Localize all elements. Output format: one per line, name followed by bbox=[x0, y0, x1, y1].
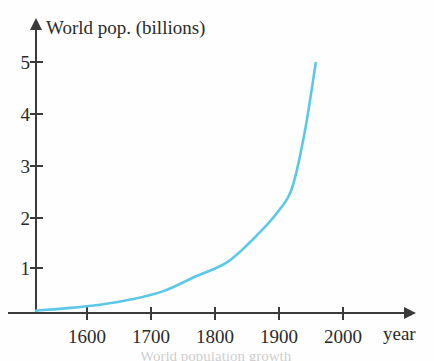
page-bleed-text: World population growth bbox=[0, 352, 434, 361]
y-tick-label-1: 1 bbox=[8, 259, 30, 278]
y-tick-label-3: 3 bbox=[8, 157, 30, 176]
y-tick-label-4: 4 bbox=[8, 105, 30, 124]
x-tick-label-1700: 1700 bbox=[119, 327, 183, 346]
x-axis-label: year bbox=[383, 324, 416, 343]
chart-plot-area bbox=[0, 0, 434, 361]
x-tick-label-2000: 2000 bbox=[311, 327, 375, 346]
y-tick-label-5: 5 bbox=[8, 53, 30, 72]
chart-title: World pop. (billions) bbox=[46, 18, 205, 37]
x-tick-label-1900: 1900 bbox=[247, 327, 311, 346]
x-tick-label-1800: 1800 bbox=[183, 327, 247, 346]
population-curve bbox=[36, 63, 316, 311]
y-tick-label-2: 2 bbox=[8, 209, 30, 228]
x-tick-label-1600: 1600 bbox=[55, 327, 119, 346]
chart-figure: World pop. (billions) 5 4 3 2 1 1600 170… bbox=[0, 0, 434, 361]
